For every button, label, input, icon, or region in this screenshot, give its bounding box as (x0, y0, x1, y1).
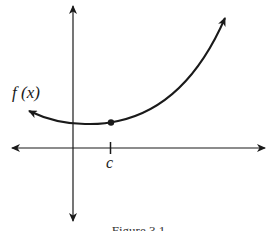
function-curve-right (85, 18, 225, 124)
function-curve-left (29, 111, 85, 124)
figure-caption: Figure 3.1 (0, 222, 277, 231)
function-graph-figure: f (x) c Figure 3.1 (0, 0, 277, 231)
c-label: c (106, 154, 113, 172)
function-label: f (x) (12, 83, 40, 103)
graph-svg (0, 0, 277, 231)
point-at-c (108, 119, 114, 125)
